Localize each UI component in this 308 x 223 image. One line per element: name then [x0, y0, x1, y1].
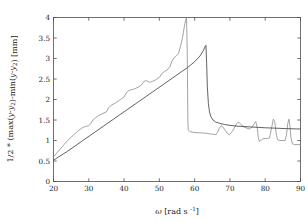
figure-container: 203040506070809000.511.522.533.54 ω [rad…: [0, 0, 308, 223]
x-tick-label: 50: [155, 184, 165, 193]
y-tick-label: 2.5: [39, 75, 51, 84]
x-tick-label: 90: [296, 184, 306, 193]
x-tick-label: 60: [190, 184, 200, 193]
x-tick-label: 70: [225, 184, 235, 193]
y-tick-label: 1.5: [39, 116, 51, 125]
curves-group: [54, 18, 301, 161]
y-tick-label: 0.5: [39, 157, 51, 166]
chart-canvas: 203040506070809000.511.522.533.54: [0, 0, 308, 223]
x-tick-label: 80: [261, 184, 271, 193]
axes-group: [54, 18, 301, 182]
data-series-simulated: [54, 45, 301, 160]
x-tick-label: 40: [119, 184, 129, 193]
data-series-measured: [54, 18, 301, 157]
tick-labels-group: 203040506070809000.511.522.533.54: [39, 13, 306, 193]
y-tick-label: 0: [45, 177, 50, 186]
y-tick-label: 1: [45, 136, 50, 145]
plot-frame: [54, 18, 301, 182]
x-tick-label: 20: [49, 184, 59, 193]
y-tick-label: 4: [45, 13, 50, 22]
y-tick-label: 3.5: [39, 34, 51, 43]
x-tick-label: 30: [84, 184, 94, 193]
y-tick-label: 2: [45, 95, 50, 104]
y-tick-label: 3: [45, 54, 50, 63]
